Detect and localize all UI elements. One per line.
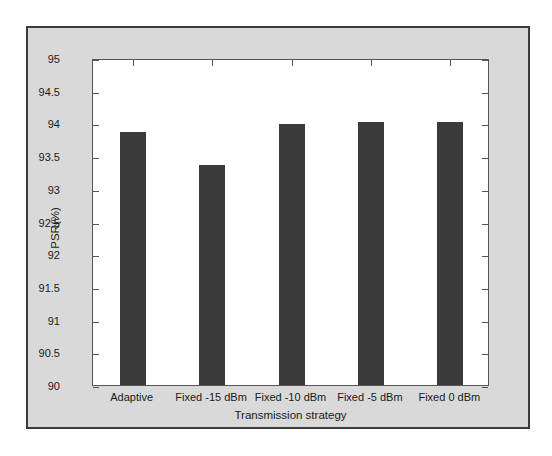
x-tick-label: Adaptive	[110, 391, 153, 403]
y-tick-label: 91.5	[39, 282, 60, 293]
y-tick-label: 91	[48, 315, 60, 326]
bar	[358, 122, 384, 385]
x-tick-label: Fixed -5 dBm	[337, 391, 402, 403]
bar	[437, 122, 463, 385]
y-tick-mark	[93, 387, 99, 388]
figure-canvas: PSR(%) 9090.59191.59292.59393.59494.595 …	[26, 26, 530, 429]
x-tick-label: Fixed -15 dBm	[175, 391, 247, 403]
y-tick-label: 93.5	[39, 152, 60, 163]
y-tick-label: 94	[48, 119, 60, 130]
plot-area	[92, 59, 489, 386]
x-tick-label: Fixed -10 dBm	[255, 391, 327, 403]
x-axis-title: Transmission strategy	[92, 409, 489, 421]
y-tick-label: 94.5	[39, 86, 60, 97]
y-tick-label: 92.5	[39, 217, 60, 228]
bar	[120, 132, 146, 385]
bar	[279, 124, 305, 385]
y-tick-label: 93	[48, 184, 60, 195]
bar-series	[93, 60, 488, 385]
y-tick-label: 95	[48, 54, 60, 65]
y-tick-label: 92	[48, 250, 60, 261]
y-tick-label: 90.5	[39, 348, 60, 359]
bar	[199, 165, 225, 385]
y-tick-mark	[482, 387, 488, 388]
y-tick-label: 90	[48, 381, 60, 392]
x-tick-label: Fixed 0 dBm	[418, 391, 480, 403]
